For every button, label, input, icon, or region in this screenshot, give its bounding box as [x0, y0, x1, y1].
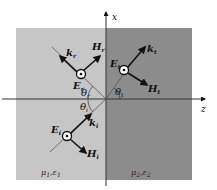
reflection-refraction-diagram: x z kr Hr Er θr kt Ht Et θt ki Hi Ei θi … [0, 0, 217, 190]
e-i-dot [66, 135, 69, 138]
z-axis-label: z [200, 104, 206, 114]
e-t-dot [123, 69, 126, 72]
e-r-dot [80, 73, 83, 76]
x-axis-label: x [112, 12, 117, 22]
